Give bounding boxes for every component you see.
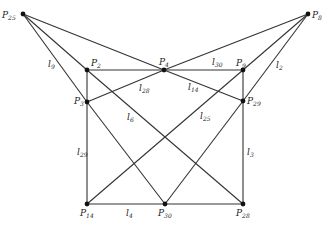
line-label-l30: l30 (212, 57, 223, 68)
point-P8 (306, 12, 311, 17)
line-label-l25: l25 (200, 111, 211, 122)
point-label-P4: P4 (158, 57, 169, 68)
point-P25 (21, 12, 26, 17)
line-label-l4: l4 (126, 208, 133, 219)
point-label-P14: P14 (79, 208, 94, 219)
diagram-canvas: P25P8P2P4P9P3P29P14P30P28 l9l28l14l30l2l… (0, 0, 331, 230)
point-label-P25: P25 (1, 10, 16, 21)
point-P30 (163, 202, 168, 207)
point-P4 (162, 68, 167, 73)
line-label-l2: l2 (276, 60, 283, 71)
segment-P4-P3 (87, 70, 164, 102)
line-label-l6: l6 (127, 112, 134, 123)
point-label-P9: P9 (235, 58, 246, 69)
point-label-P2: P2 (90, 58, 101, 69)
point-P28 (241, 202, 246, 207)
line-label-l29: l29 (77, 147, 88, 158)
vertex-points (21, 12, 311, 207)
line-label-l3: l3 (247, 147, 254, 158)
line-label-l14: l14 (188, 82, 199, 93)
point-P2 (85, 68, 90, 73)
point-label-P28: P28 (235, 208, 250, 219)
line-label-l9: l9 (48, 59, 55, 70)
line-segments (23, 14, 308, 204)
point-P3 (85, 100, 90, 105)
point-P29 (241, 99, 246, 104)
line-label-l28: l28 (139, 83, 150, 94)
segment-P4-P29 (164, 70, 243, 101)
point-label-P30: P30 (157, 208, 172, 219)
segment-P25-P2 (23, 14, 87, 70)
point-label-P3: P3 (73, 96, 84, 107)
segment-P3-P30 (87, 102, 165, 204)
point-labels: P25P8P2P4P9P3P29P14P30P28 (1, 10, 322, 219)
point-label-P29: P29 (246, 96, 261, 107)
point-label-P8: P8 (311, 10, 322, 21)
geometry-diagram: P25P8P2P4P9P3P29P14P30P28 l9l28l14l30l2l… (0, 0, 331, 230)
point-P14 (85, 202, 90, 207)
